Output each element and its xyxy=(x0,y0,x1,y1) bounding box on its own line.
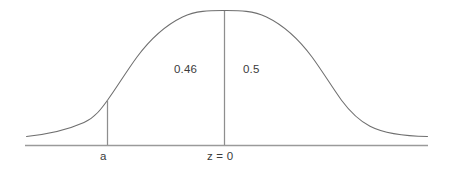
axis-tick-label-a: a xyxy=(100,151,107,163)
bell-curve-path xyxy=(27,11,428,137)
area-label-right: 0.5 xyxy=(243,64,260,76)
axis-tick-label-z: z = 0 xyxy=(207,151,233,163)
normal-distribution-figure: 0.46 0.5 a z = 0 xyxy=(0,0,451,176)
area-label-left: 0.46 xyxy=(174,64,197,76)
